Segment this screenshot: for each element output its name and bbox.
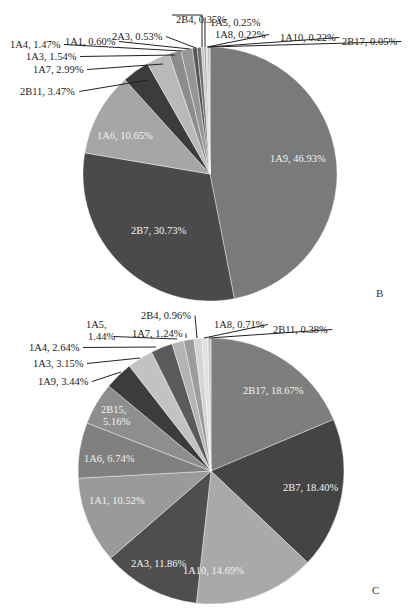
slice-label-1a9: 1A9, 3.44% [38,376,89,387]
slice-label-1a4: 1A4, 1.47% [10,39,61,50]
leader-line [83,347,156,348]
slice-label-1a6: 1A6, 10.65% [97,130,153,141]
slice-label-2a3: 2A3, 0.53% [112,31,163,42]
leader-line [87,358,140,364]
slice-label-2b7: 2B7, 30.73% [131,225,186,236]
slice-label-1a6: 1A6, 6.74% [84,453,135,464]
slice-label-1a5: 1A5, 0.25% [210,17,261,28]
pie-chart-b: 1A9, 46.93%2B7, 30.73%1A6, 10.65%2B11, 3… [10,14,401,301]
panel-label-c: C [372,584,379,596]
slice-label-1a1: 1A1, 10.52% [89,495,145,506]
slice-label-2b11: 2B11, 3.47% [20,86,75,97]
leader-line [166,37,196,49]
slice-label-2b7: 2B7, 18.40% [283,482,338,493]
slice-label-2b15: 2B15,5.16% [101,404,130,427]
slice-label-1a5: 1A5,1.44% [86,319,115,342]
pie-chart-c: 2B17, 18.67%2B7, 18.40%1A10, 14.69%2A3, … [29,310,344,604]
slice-label-2b4: 2B4, 0.96% [141,310,191,321]
slice-label-1a10: 1A10, 14.69% [183,565,244,576]
slice-label-1a8: 1A8, 0.71% [214,319,265,330]
slice-label-1a9: 1A9, 46.93% [270,153,326,164]
slice-label-1a4: 1A4, 2.64% [29,342,80,353]
panel-label-b: B [376,287,383,299]
slice-label-1a3: 1A3, 1.54% [26,51,77,62]
slice-label-1a7: 1A7, 2.99% [33,64,84,75]
leader-line [80,55,175,57]
slice-label-1a7: 1A7, 1.24% [132,328,183,339]
pie-slice-1a9 [210,47,337,299]
slice-label-2b17: 2B17, 18.67% [243,385,304,396]
slice-label-1a3: 1A3, 3.15% [33,358,84,369]
leader-line [195,316,197,339]
slice-label-1a8: 1A8, 0.22% [215,29,266,40]
slice-label-1a1: 1A1, 0.60% [65,36,116,47]
pie-charts-figure: 1A9, 46.93%2B7, 30.73%1A6, 10.65%2B11, 3… [0,0,417,616]
slices [83,47,337,301]
slice-label-2a3: 2A3, 11.86% [131,558,187,569]
